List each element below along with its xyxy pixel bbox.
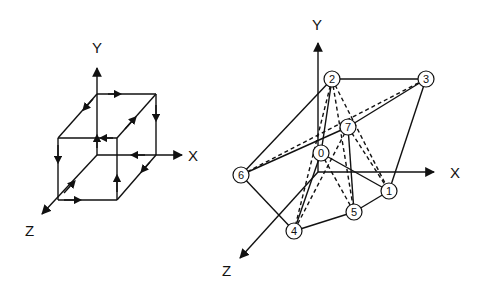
right-y-label: Y xyxy=(312,16,322,33)
node-7: 7 xyxy=(340,119,356,135)
right-graph-figure: 01234567 Y X Z xyxy=(222,16,460,279)
solid-edge-7-3 xyxy=(348,79,426,127)
node-3: 3 xyxy=(418,71,434,87)
solid-edge-3-1 xyxy=(389,79,426,191)
node-label: 3 xyxy=(423,73,429,85)
node-6: 6 xyxy=(233,167,249,183)
node-label: 0 xyxy=(318,147,324,159)
arrow-down-left-icon xyxy=(85,99,93,108)
solid-edge-6-4 xyxy=(241,175,294,231)
node-label: 4 xyxy=(291,225,297,237)
node-5: 5 xyxy=(346,204,362,220)
node-0: 0 xyxy=(313,145,329,161)
dashed-edge-2-1 xyxy=(332,79,389,191)
solid-edge-7-5 xyxy=(348,127,354,212)
node-1: 1 xyxy=(381,183,397,199)
arrow-up-right-icon xyxy=(125,119,134,129)
right-graph-edges xyxy=(241,79,426,231)
node-label: 5 xyxy=(351,206,357,218)
left-y-label: Y xyxy=(92,39,102,56)
node-label: 1 xyxy=(386,185,392,197)
left-cube-figure: Y X Z xyxy=(25,39,198,239)
solid-edge-6-7 xyxy=(241,127,348,175)
solid-edge-0-4 xyxy=(294,153,321,231)
cube-edge xyxy=(117,155,156,200)
right-z-label: Z xyxy=(222,262,231,279)
dashed-edge-7-1 xyxy=(348,127,389,191)
diagram-canvas: Y X Z 01234567 Y X Z xyxy=(0,0,485,291)
arrow-down-left-icon xyxy=(143,162,150,170)
node-2: 2 xyxy=(324,71,340,87)
left-z-label: Z xyxy=(25,222,34,239)
node-4: 4 xyxy=(286,223,302,239)
left-x-label: X xyxy=(188,147,198,164)
node-label: 7 xyxy=(345,121,351,133)
right-x-label: X xyxy=(450,164,460,181)
dashed-edge-7-4 xyxy=(294,127,348,231)
node-label: 2 xyxy=(329,73,335,85)
node-label: 6 xyxy=(238,169,244,181)
cube-edge xyxy=(117,94,156,138)
left-z-axis xyxy=(42,155,97,214)
